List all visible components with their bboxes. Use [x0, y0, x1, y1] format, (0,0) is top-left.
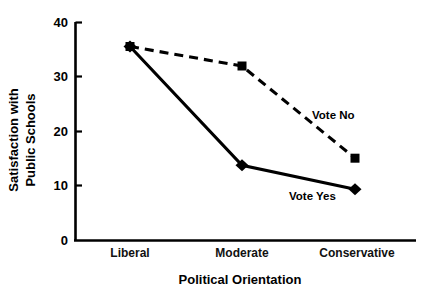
y-axis-title-line2: Public Schools — [23, 93, 38, 186]
x-category-label-moderate: Moderate — [215, 246, 269, 260]
x-axis-title: Political Orientation — [179, 272, 302, 287]
chart-container: 40 30 20 10 0 Vote No Vote Yes Liberal M… — [0, 0, 426, 297]
line-chart: 40 30 20 10 0 Vote No Vote Yes Liberal M… — [0, 0, 426, 297]
y-tick-label-10: 10 — [54, 178, 68, 193]
marker-vote-no-conservative — [351, 154, 360, 163]
marker-vote-no-moderate — [238, 62, 247, 71]
series-label-vote-no: Vote No — [312, 109, 355, 121]
y-tick-label-0: 0 — [61, 233, 68, 248]
y-tick-label-20: 20 — [54, 124, 68, 139]
x-category-label-liberal: Liberal — [110, 246, 149, 260]
y-tick-label-40: 40 — [54, 15, 68, 30]
y-tick-label-30: 30 — [54, 69, 68, 84]
series-label-vote-yes: Vote Yes — [289, 190, 336, 202]
y-axis-title-line1: Satisfaction with — [6, 88, 21, 191]
x-category-label-conservative: Conservative — [319, 246, 395, 260]
